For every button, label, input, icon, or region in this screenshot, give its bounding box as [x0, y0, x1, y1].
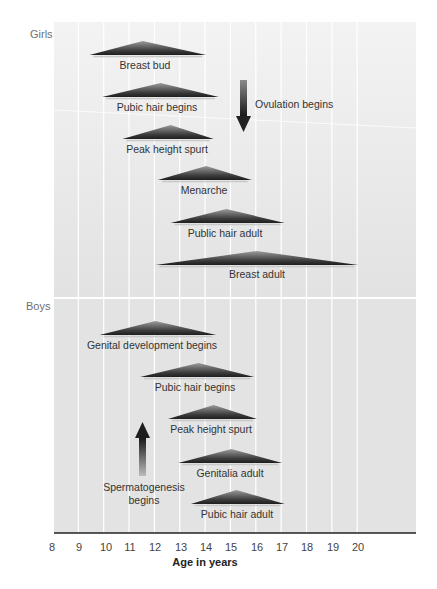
ovulation-label: Ovulation begins	[255, 98, 333, 111]
x-tick: 15	[225, 541, 237, 553]
girls-event-label: Public hair adult	[188, 227, 263, 239]
girls-event-label: Breast bud	[120, 59, 171, 71]
chart-canvas	[0, 0, 437, 589]
girls-event-label: Peak height spurt	[126, 143, 208, 155]
spermatogenesis-label-line1: Spermatogenesis	[94, 481, 194, 494]
x-tick: 19	[327, 541, 339, 553]
girls-event-label: Pubic hair begins	[117, 101, 198, 113]
x-tick: 11	[124, 541, 135, 553]
x-tick: 18	[301, 541, 313, 553]
girls-event-label: Menarche	[181, 184, 228, 196]
x-tick: 16	[251, 541, 263, 553]
boys-event-label: Genital development begins	[87, 339, 217, 351]
puberty-timeline-chart: Girls Boys Ovulation begins Spermatogene…	[0, 0, 437, 589]
boys-event-label: Pubic hair adult	[201, 508, 273, 520]
spermatogenesis-label-line2: begins	[94, 494, 194, 507]
boys-event-label: Peak height spurt	[170, 423, 252, 435]
x-tick: 13	[175, 541, 187, 553]
boys-event-label: Pubic hair begins	[155, 381, 236, 393]
x-tick: 10	[100, 541, 112, 553]
x-tick: 20	[352, 541, 364, 553]
x-tick: 12	[149, 541, 161, 553]
boys-event-label: Genitalia adult	[196, 467, 263, 479]
x-tick: 9	[76, 541, 82, 553]
girls-event-label: Breast adult	[229, 268, 285, 280]
x-tick: 14	[200, 541, 212, 553]
x-axis-title: Age in years	[0, 556, 410, 568]
girls-section-label: Girls	[30, 28, 53, 40]
spermatogenesis-label: Spermatogenesis begins	[94, 481, 194, 507]
x-tick: 8	[49, 541, 55, 553]
x-tick: 17	[276, 541, 288, 553]
boys-section-label: Boys	[26, 300, 50, 312]
